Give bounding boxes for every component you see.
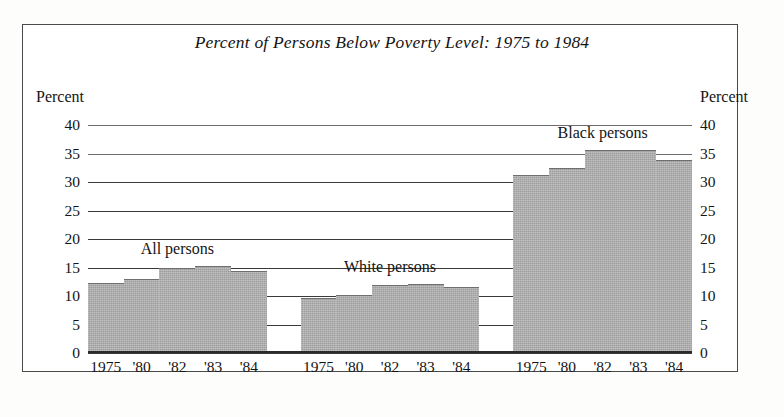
bar-white-persons-80: [336, 295, 372, 353]
y-axis-label-right-0: 0: [700, 345, 708, 361]
x-axis-tick-1-3: '83: [417, 358, 435, 376]
chart-title: Percent of Persons Below Poverty Level: …: [0, 32, 784, 53]
right-axis-caption: Percent: [700, 88, 748, 106]
bar-all-persons-84: [231, 271, 267, 353]
group-label-all-persons: All persons: [141, 240, 214, 258]
y-axis-label-left-35: 35: [65, 146, 81, 162]
y-axis-label-left-40: 40: [65, 117, 81, 133]
figure-canvas: Percent of Persons Below Poverty Level: …: [0, 0, 784, 417]
x-axis-tick-1-1: '80: [345, 358, 363, 376]
x-axis-tick-1-0: 1975: [303, 358, 334, 376]
bar-black-persons-83: [621, 150, 657, 353]
x-axis-tick-0-4: '84: [240, 358, 258, 376]
bars-layer: [88, 125, 692, 353]
axis-baseline: [88, 351, 692, 353]
bar-black-persons-82: [585, 150, 621, 353]
group-label-black-persons: Black persons: [558, 124, 648, 142]
x-axis-tick-2-1: '80: [558, 358, 576, 376]
y-axis-label-right-35: 35: [700, 146, 716, 162]
y-axis-label-right-5: 5: [700, 317, 708, 333]
y-axis-label-left-30: 30: [65, 174, 81, 190]
x-axis-tick-2-0: 1975: [516, 358, 547, 376]
bar-black-persons-1975: [513, 175, 549, 353]
y-axis-label-right-15: 15: [700, 260, 716, 276]
bar-all-persons-1975: [88, 283, 124, 353]
bar-white-persons-1975: [301, 298, 337, 353]
y-axis-label-right-40: 40: [700, 117, 716, 133]
gridline-0: [88, 353, 692, 354]
x-axis-tick-2-2: '82: [594, 358, 612, 376]
x-axis-tick-0-2: '82: [168, 358, 186, 376]
x-axis-tick-0-1: '80: [132, 358, 150, 376]
y-axis-label-left-5: 5: [72, 317, 80, 333]
y-axis-label-left-20: 20: [65, 231, 81, 247]
y-axis-label-right-10: 10: [700, 288, 716, 304]
y-axis-label-right-20: 20: [700, 231, 716, 247]
x-axis-tick-2-4: '84: [665, 358, 683, 376]
bar-black-persons-80: [549, 168, 585, 353]
x-axis-tick-0-0: 1975: [90, 358, 121, 376]
bar-white-persons-83: [408, 284, 444, 353]
bar-all-persons-82: [159, 268, 195, 354]
y-axis-label-right-30: 30: [700, 174, 716, 190]
y-axis-label-left-15: 15: [65, 260, 81, 276]
y-axis-label-right-25: 25: [700, 203, 716, 219]
y-axis-label-left-25: 25: [65, 203, 81, 219]
bar-white-persons-82: [372, 285, 408, 353]
x-axis-tick-1-2: '82: [381, 358, 399, 376]
x-axis-tick-layer: 1975'80'82'83'841975'80'82'83'841975'80'…: [88, 358, 692, 382]
left-axis-caption: Percent: [36, 88, 84, 106]
bar-white-persons-84: [444, 287, 480, 353]
x-axis-tick-1-4: '84: [452, 358, 470, 376]
bar-all-persons-80: [124, 279, 160, 353]
bar-all-persons-83: [195, 266, 231, 353]
y-axis-label-left-10: 10: [65, 288, 81, 304]
x-axis-tick-0-3: '83: [204, 358, 222, 376]
group-label-white-persons: White persons: [344, 258, 436, 276]
bar-black-persons-84: [656, 160, 692, 353]
plot-area: 00551010151520202525303035354040 All per…: [88, 125, 692, 353]
y-axis-label-left-0: 0: [72, 345, 80, 361]
x-axis-tick-2-3: '83: [629, 358, 647, 376]
